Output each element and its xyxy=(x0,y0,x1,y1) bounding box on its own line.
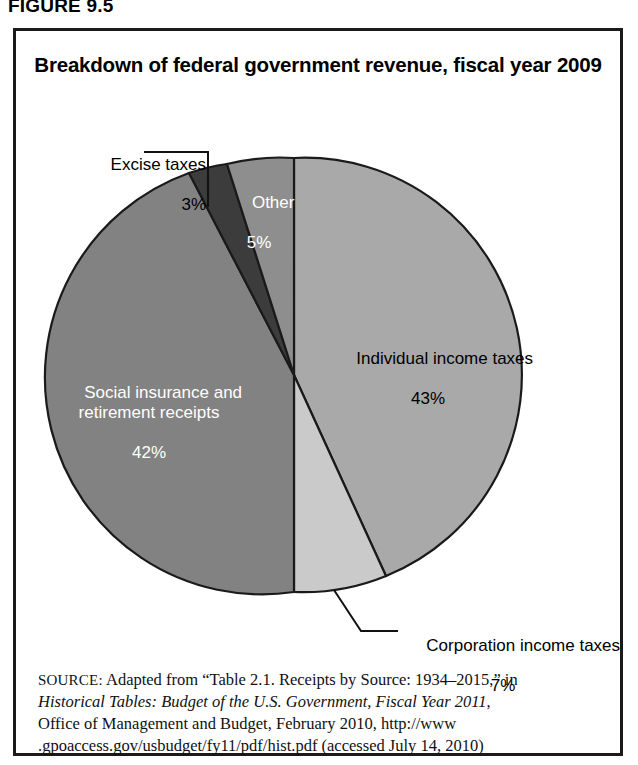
source-line-2-italic: Historical Tables: Budget of the U.S. Go… xyxy=(38,692,487,711)
leader-line-corporation-income-taxes xyxy=(334,590,398,631)
pie-label-excise-taxes: Excise taxes 3% xyxy=(46,135,206,255)
pie-label-other: Other 5% xyxy=(216,173,302,293)
source-note-line-2: Historical Tables: Budget of the U.S. Go… xyxy=(38,691,604,713)
pie-chart: Excise taxes 3% Other 5% Individual inco… xyxy=(16,31,620,671)
source-note-line-3: Office of Management and Budget, Februar… xyxy=(38,713,604,735)
pie-label-other-percent: 5% xyxy=(216,233,302,253)
pie-label-individual-income-taxes-title: Individual income taxes xyxy=(356,349,533,368)
pie-label-excise-taxes-title: Excise taxes xyxy=(111,155,206,174)
source-label: SOURCE: xyxy=(38,672,103,688)
pie-label-social-insurance-percent: 42% xyxy=(34,443,264,463)
pie-label-excise-taxes-percent: 3% xyxy=(46,195,206,215)
source-note: SOURCE: Adapted from “Table 2.1. Receipt… xyxy=(38,669,604,757)
pie-label-corporation-income-taxes-title: Corporation income taxes xyxy=(426,636,620,655)
pie-label-social-insurance: Social insurance and retirement receipts… xyxy=(34,363,264,503)
pie-label-social-insurance-title: Social insurance and retirement receipts xyxy=(79,383,242,422)
source-note-line-1: SOURCE: Adapted from “Table 2.1. Receipt… xyxy=(38,669,604,691)
source-note-line-4: .gpoaccess.gov/usbudget/fy11/pdf/hist.pd… xyxy=(38,735,604,757)
source-line-1-text: Adapted from “Table 2.1. Receipts by Sou… xyxy=(103,670,518,689)
source-line-2-tail: , xyxy=(487,692,491,711)
figure-number: FIGURE 9.5 xyxy=(8,0,113,17)
pie-label-individual-income-taxes-percent: 43% xyxy=(328,389,528,409)
pie-label-individual-income-taxes: Individual income taxes 43% xyxy=(328,329,528,449)
pie-label-other-title: Other xyxy=(252,193,295,212)
figure-box: Breakdown of federal government revenue,… xyxy=(13,28,623,756)
